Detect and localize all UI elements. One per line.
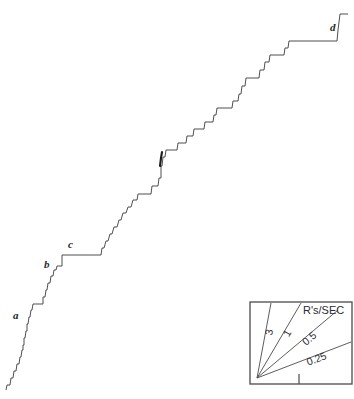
rate-key-legend: 310.50.25 R's/SEC — [250, 302, 352, 384]
point-b: b — [44, 258, 50, 270]
point-d: d — [330, 21, 336, 33]
rate-key-title: R's/SEC — [303, 304, 344, 316]
curve-annotations: abcd — [13, 21, 336, 321]
cumulative-record-figure: abcd 310.50.25 R's/SEC — [0, 0, 354, 399]
pen-reset-mark — [160, 152, 162, 166]
point-a: a — [13, 309, 19, 321]
record-canvas: abcd 310.50.25 R's/SEC — [0, 0, 354, 399]
point-c: c — [68, 238, 73, 250]
